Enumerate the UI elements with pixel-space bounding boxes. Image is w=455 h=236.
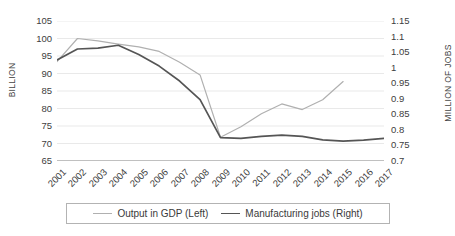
y-tick-label-left: 90 <box>22 69 52 79</box>
chart-legend: Output in GDP (Left)Manufacturing jobs (… <box>66 203 390 224</box>
y-tick-label-left: 95 <box>22 51 52 61</box>
y-axis-right-title: MILLION OF JOBS <box>443 23 453 143</box>
legend-item[interactable]: Manufacturing jobs (Right) <box>221 208 362 219</box>
y-tick-label-right: 1 <box>391 63 421 73</box>
y-tick-label-left: 105 <box>22 16 52 26</box>
legend-item[interactable]: Output in GDP (Left) <box>93 208 208 219</box>
line-chart: BILLION MILLION OF JOBS 6570758085909510… <box>0 0 455 236</box>
series-line <box>57 45 384 141</box>
y-tick-label-right: 0.7 <box>391 156 421 166</box>
y-tick-label-left: 80 <box>22 104 52 114</box>
y-tick-label-right: 1.15 <box>391 16 421 26</box>
legend-label: Manufacturing jobs (Right) <box>245 208 362 219</box>
y-tick-label-right: 0.75 <box>391 140 421 150</box>
legend-swatch-icon <box>93 213 112 214</box>
legend-label: Output in GDP (Left) <box>117 208 208 219</box>
plot-svg <box>57 21 384 161</box>
y-tick-label-right: 0.85 <box>391 109 421 119</box>
y-tick-label-left: 65 <box>22 156 52 166</box>
y-tick-label-left: 75 <box>22 121 52 131</box>
series-line <box>57 39 343 138</box>
legend-swatch-icon <box>221 213 240 214</box>
y-tick-label-left: 85 <box>22 86 52 96</box>
y-axis-left-title: BILLION <box>7 35 17 125</box>
y-tick-label-right: 1.1 <box>391 32 421 42</box>
y-tick-label-left: 70 <box>22 139 52 149</box>
y-tick-label-right: 1.05 <box>391 47 421 57</box>
y-tick-label-right: 0.8 <box>391 125 421 135</box>
y-tick-label-right: 0.9 <box>391 94 421 104</box>
y-tick-label-left: 100 <box>22 34 52 44</box>
y-tick-label-right: 0.95 <box>391 78 421 88</box>
plot-area <box>57 21 384 161</box>
